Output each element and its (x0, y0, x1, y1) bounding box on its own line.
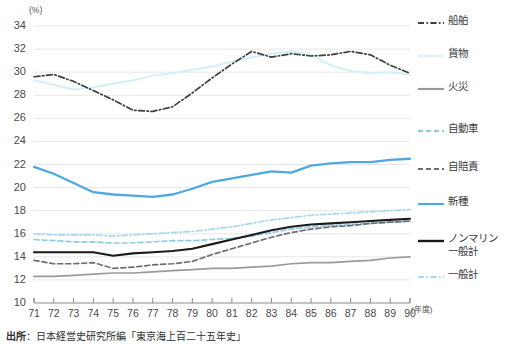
series-line (34, 221, 410, 243)
x-axis-tick-label: 80 (203, 307, 221, 319)
legend-key-swatch (418, 48, 444, 60)
y-axis-tick-label: 18 (4, 204, 26, 216)
legend-label: 自動車 (448, 122, 478, 135)
x-axis-tick-label: 71 (25, 307, 43, 319)
y-axis-tick-label: 34 (4, 19, 26, 31)
y-axis-tick-label: 14 (4, 250, 26, 262)
source-prefix: 出所 (6, 331, 26, 342)
legend-key-swatch (418, 196, 444, 208)
x-axis-tick-label: 85 (302, 307, 320, 319)
y-axis-tick-label: 20 (4, 181, 26, 193)
y-axis-tick-label: 32 (4, 42, 26, 54)
series-line (34, 257, 410, 277)
legend-label: 火災 (448, 80, 468, 93)
legend-item: 貨物 (418, 47, 468, 60)
legend-key-swatch (418, 233, 444, 245)
legend-label: 一般計 (448, 268, 478, 281)
legend-key-swatch (418, 123, 444, 135)
legend-key-swatch (418, 15, 444, 27)
x-axis-tick-label: 89 (381, 307, 399, 319)
legend-item: ノンマリン一般計 (418, 232, 498, 257)
y-axis-tick-label: 28 (4, 88, 26, 100)
y-axis-tick-label: 22 (4, 158, 26, 170)
x-axis-tick-label: 77 (144, 307, 162, 319)
legend-item: 船舶 (418, 14, 468, 27)
legend-key-swatch (418, 161, 444, 173)
legend-label: 新種 (448, 195, 468, 208)
x-axis-tick-label: 73 (65, 307, 83, 319)
x-axis-tick-label: 76 (124, 307, 142, 319)
x-axis-tick-label: 87 (342, 307, 360, 319)
y-axis-tick-label: 24 (4, 134, 26, 146)
legend-item: 新種 (418, 195, 468, 208)
y-axis-tick-label: 12 (4, 273, 26, 285)
source-text: ：日本経営史研究所編「東京海上百二十五年史」 (26, 331, 246, 342)
x-axis-tick-label: 78 (164, 307, 182, 319)
x-axis-tick-label: 81 (223, 307, 241, 319)
legend-key-swatch (418, 269, 444, 281)
legend-label: ノンマリン一般計 (448, 232, 498, 257)
y-axis-tick-label: 10 (4, 296, 26, 308)
series-line (34, 51, 410, 111)
x-axis-tick-label: 75 (104, 307, 122, 319)
x-axis-tick-label: 84 (282, 307, 300, 319)
legend-label: 自賠責 (448, 160, 478, 173)
x-axis-tick-label: 83 (262, 307, 280, 319)
x-axis-tick-label: 79 (183, 307, 201, 319)
x-axis-unit-label: (年度) (411, 303, 432, 314)
legend-label: 貨物 (448, 47, 468, 60)
legend-item: 一般計 (418, 268, 478, 281)
y-axis-tick-label: 30 (4, 65, 26, 77)
x-axis-tick-label: 86 (322, 307, 340, 319)
legend-item: 自賠責 (418, 160, 478, 173)
chart-figure: (%) 34323028262422201816141210 717273747… (0, 0, 510, 350)
legend-label: 船舶 (448, 14, 468, 27)
legend-key-swatch (418, 81, 444, 93)
chart-legend: 船舶貨物火災自動車自賠責新種ノンマリン一般計一般計 (418, 0, 510, 300)
x-axis-tick-label: 88 (361, 307, 379, 319)
x-axis-tick-label: 72 (45, 307, 63, 319)
y-axis-tick-label: 26 (4, 111, 26, 123)
y-axis-tick-label: 16 (4, 227, 26, 239)
source-note: 出所：日本経営史研究所編「東京海上百二十五年史」 (6, 328, 246, 343)
legend-item: 火災 (418, 80, 468, 93)
legend-item: 自動車 (418, 122, 478, 135)
x-axis-tick-label: 74 (84, 307, 102, 319)
x-axis-tick-label: 82 (243, 307, 261, 319)
